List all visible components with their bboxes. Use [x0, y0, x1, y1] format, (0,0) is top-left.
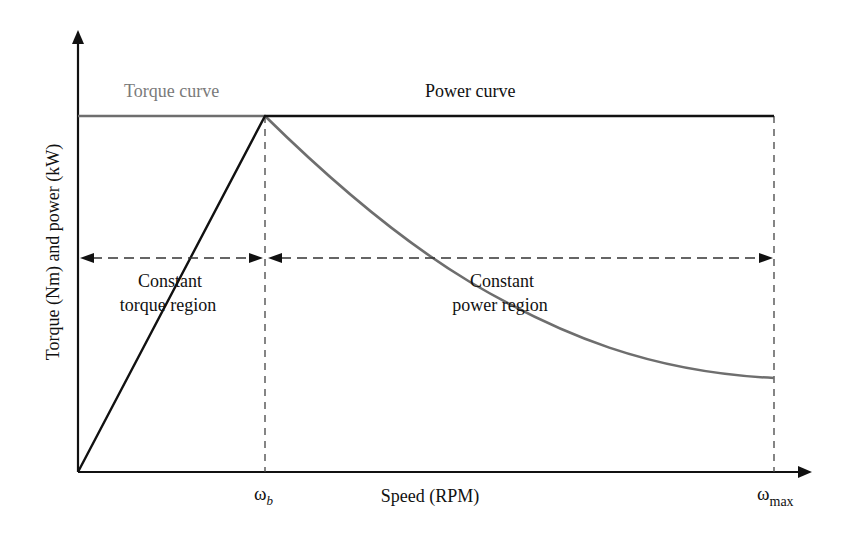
power-curve — [78, 116, 774, 472]
power-curve-label: Power curve — [425, 81, 515, 101]
y-axis — [72, 30, 84, 472]
max-speed-tick-label: ωmax — [757, 483, 794, 509]
x-axis-arrow-icon — [798, 466, 812, 478]
base-speed-tick-label: ωb — [254, 483, 274, 508]
torque-curve-label: Torque curve — [124, 81, 219, 101]
x-axis-label: Speed (RPM) — [381, 486, 480, 507]
constant-torque-label-line2: torque region — [120, 295, 216, 315]
constant-torque-label-line1: Constant — [138, 271, 202, 291]
constant-power-region-arrow — [268, 253, 773, 263]
torque-curve — [78, 116, 774, 378]
y-axis-label: Torque (Nm) and power (kW) — [43, 144, 64, 361]
constant-power-label-line1: Constant — [470, 271, 534, 291]
torque-power-diagram: Torque curve Power curve Constant torque… — [0, 0, 851, 534]
constant-power-label-line2: power region — [452, 295, 547, 315]
y-axis-arrow-icon — [72, 30, 84, 44]
x-axis — [78, 466, 812, 478]
constant-torque-region-arrow — [80, 253, 263, 263]
